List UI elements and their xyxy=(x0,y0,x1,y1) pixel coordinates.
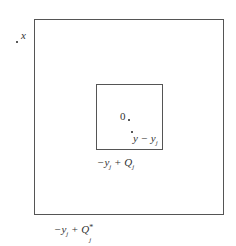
point-x-dot xyxy=(16,41,18,43)
origin-label: 0 xyxy=(120,111,126,122)
origin-dot xyxy=(128,119,130,121)
outer-label-q-superscript: * xyxy=(89,224,93,232)
inner-label-q: + Q xyxy=(111,156,132,168)
point-y-minus-yj-label: y − yj xyxy=(133,133,158,147)
point-x-label: x xyxy=(21,30,26,41)
inner-label-prefix: −y xyxy=(97,156,109,168)
y-minus-yj-text: y − y xyxy=(133,132,156,144)
origin-text: 0 xyxy=(120,110,126,122)
y-minus-yj-subscript: j xyxy=(156,139,158,147)
outer-label-q-subscript: j xyxy=(89,237,91,244)
outer-region-label: −yj + Q*j xyxy=(54,224,95,238)
outer-label-prefix: −y xyxy=(54,223,66,235)
point-x-text: x xyxy=(21,29,26,41)
inner-region-label: −yj + Qj xyxy=(97,157,134,171)
inner-label-q-subscript: j xyxy=(132,163,134,171)
outer-label-q: + Q xyxy=(68,223,89,235)
